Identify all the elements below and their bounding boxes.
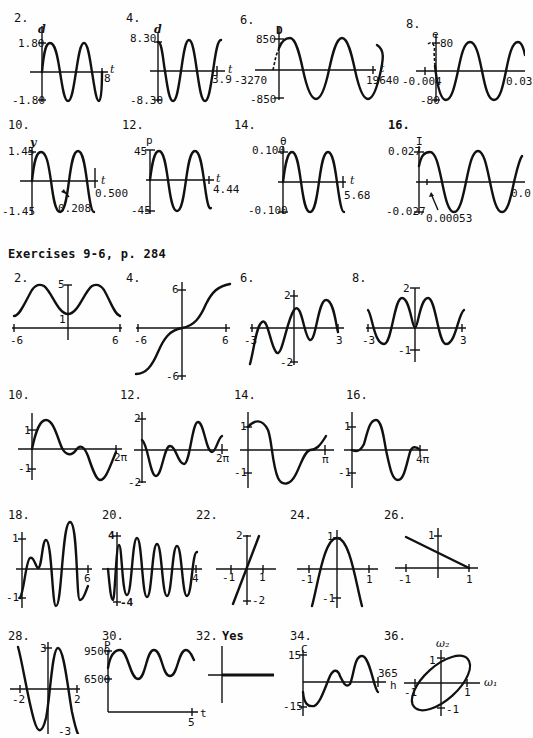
graph-ex-2 bbox=[12, 285, 122, 340]
x-max-label: 1 bbox=[366, 574, 373, 586]
x-min-label: -3270 bbox=[234, 75, 267, 87]
y-tick-label: -1 bbox=[446, 704, 459, 716]
y-tick-label: 1 bbox=[59, 314, 66, 326]
graph-ex-36 bbox=[403, 646, 480, 719]
y-tick-label: 1 bbox=[240, 421, 247, 433]
x-max-label: 1 bbox=[466, 574, 473, 586]
section-heading: Exercises 9-6, p. 284 bbox=[8, 247, 166, 261]
x-min-label: -1 bbox=[404, 687, 417, 699]
exercise-number: 12. bbox=[122, 119, 144, 132]
x-min-label: -1 bbox=[222, 572, 235, 584]
y-tick-label: -1 bbox=[6, 592, 19, 604]
annotation-label: 0.208 bbox=[58, 203, 91, 215]
graph-ex-26 bbox=[395, 528, 478, 578]
graph-ex-28 bbox=[10, 642, 80, 734]
x-min-label: -1 bbox=[300, 574, 313, 586]
exercise-number: 26. bbox=[384, 509, 406, 522]
x-axis-label: t bbox=[200, 708, 207, 720]
y-tick-label: -6 bbox=[166, 371, 179, 383]
graph-ex-32 bbox=[208, 646, 274, 703]
y-tick-label: -1 bbox=[322, 593, 335, 605]
y-max-label: 1.80 bbox=[18, 38, 45, 50]
x-min-label: -2 bbox=[12, 694, 25, 706]
exercise-number: 4. bbox=[126, 272, 140, 285]
x-max-label: 5 bbox=[188, 717, 195, 729]
y-tick-label: 6 bbox=[172, 284, 179, 296]
graph-ex-24 bbox=[297, 530, 378, 608]
y-tick-label: -1 bbox=[234, 467, 247, 479]
graph-ex-34 bbox=[299, 650, 386, 716]
exercise-number: 18. bbox=[8, 509, 30, 522]
x-max-label: 4 bbox=[192, 573, 199, 585]
exercise-number: 8. bbox=[352, 272, 366, 285]
x-axis-label: h bbox=[390, 680, 397, 692]
y-axis-label: d bbox=[38, 24, 46, 36]
x-min-label: -3 bbox=[244, 335, 257, 347]
x-max-label: 0.0 bbox=[511, 188, 531, 200]
exercise-number: 14. bbox=[234, 119, 256, 132]
x-axis-label: t bbox=[380, 63, 384, 75]
x-max-label: 4π bbox=[416, 454, 429, 466]
y-tick-label: 2 bbox=[134, 413, 141, 425]
x-max-label: 0.500 bbox=[95, 188, 128, 200]
x-min-label: -0.004 bbox=[402, 76, 442, 88]
exercise-number: 28. bbox=[8, 630, 30, 643]
graph-ex-20 bbox=[102, 532, 202, 606]
exercise-number: 16. bbox=[346, 389, 368, 402]
graph-ex-4 bbox=[136, 282, 230, 380]
x-max-label: 1 bbox=[259, 572, 266, 584]
y-tick-label: 3 bbox=[40, 643, 47, 655]
y-min-label: -8.30 bbox=[130, 95, 163, 107]
x-axis-label: ω₁ bbox=[484, 677, 497, 689]
x-axis-label: t bbox=[101, 175, 105, 187]
y-min-label: -45 bbox=[131, 205, 151, 217]
x-min-label: -6 bbox=[10, 335, 23, 347]
graph-ex-6 bbox=[250, 290, 344, 365]
x-max-label: 6 bbox=[222, 335, 229, 347]
exercise-number: 34. bbox=[290, 630, 312, 643]
y-tick-label: 6500 bbox=[84, 674, 111, 686]
y-tick-label: -2 bbox=[128, 477, 141, 489]
exercise-number: 14. bbox=[234, 389, 256, 402]
y-tick-label: 2 bbox=[403, 283, 410, 295]
x-max-label: 1 bbox=[464, 687, 471, 699]
y-max-label: 850 bbox=[256, 34, 276, 46]
x-max-label: 3 bbox=[336, 335, 343, 347]
y-tick-label: 4 bbox=[108, 530, 115, 542]
annotation-label: 0.00053 bbox=[426, 213, 472, 225]
exercise-number: 6. bbox=[240, 14, 254, 27]
answer-text: Yes bbox=[222, 630, 244, 643]
exercise-number: 10. bbox=[8, 389, 30, 402]
y-axis-label: e bbox=[432, 29, 439, 41]
y-tick-label: 1 bbox=[429, 655, 436, 667]
graph-ex-22 bbox=[216, 535, 276, 605]
exercise-number: 20. bbox=[102, 509, 124, 522]
graph-ex-30 bbox=[104, 650, 198, 716]
exercise-number: 10. bbox=[8, 119, 30, 132]
y-min-label: -1.80 bbox=[12, 95, 45, 107]
x-max-label: 4.44 bbox=[213, 184, 240, 196]
y-tick-label: -2 bbox=[280, 357, 293, 369]
x-max-label: 2 bbox=[74, 694, 81, 706]
exercise-number: 2. bbox=[14, 12, 28, 25]
y-tick-label: -4 bbox=[120, 597, 133, 609]
exercise-number: 6. bbox=[240, 272, 254, 285]
x-axis-label: t bbox=[110, 64, 114, 76]
y-axis-label: D bbox=[276, 25, 283, 37]
y-tick-label: 2 bbox=[284, 290, 291, 302]
y-min-label: -850 bbox=[250, 94, 277, 106]
y-axis-label: C bbox=[301, 644, 308, 656]
y-tick-label: -1 bbox=[398, 345, 411, 357]
y-max-label: 8.30 bbox=[130, 33, 157, 45]
x-max-label: 6 bbox=[84, 573, 91, 585]
graph-ex-12 bbox=[134, 412, 228, 483]
x-max-label: π bbox=[322, 454, 329, 466]
graph-ex-18 bbox=[16, 522, 92, 608]
graph-ex-8 bbox=[366, 288, 466, 362]
x-min-label: -1 bbox=[398, 574, 411, 586]
graph-top-8 bbox=[416, 34, 525, 102]
graph-top-12 bbox=[145, 150, 214, 214]
y-min-label: -0.027 bbox=[386, 206, 426, 218]
graph-top-14 bbox=[278, 146, 346, 214]
